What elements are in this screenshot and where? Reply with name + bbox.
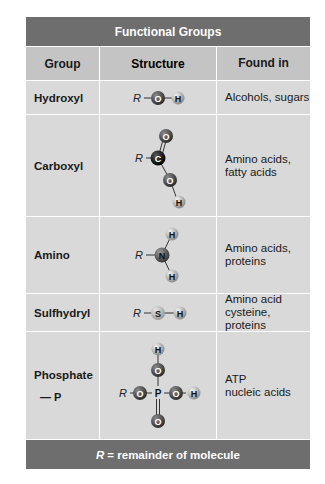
structure-cell: R S H [100,294,217,331]
group-name: Phosphate [34,369,93,381]
svg-text:O: O [154,417,161,427]
svg-text:H: H [155,345,162,355]
table-row-carboxyl: Carboxyl R O C O H Amino acids,fatty aci… [26,114,310,216]
header-row: Group Structure Found in [26,46,310,80]
svg-text:H: H [191,389,198,399]
hydroxyl-structure-icon: R O H [100,82,216,114]
svg-text:H: H [177,309,184,319]
table-row-amino: Amino R H N H Amino acids,proteins [26,216,310,293]
sulfhydryl-structure-icon: R S H [100,295,216,331]
svg-text:O: O [136,389,143,399]
svg-text:O: O [154,94,161,104]
table-title: Functional Groups [26,17,310,46]
header-found-in: Found in [217,47,310,80]
structure-cell: R O H [100,81,217,114]
header-structure: Structure [100,47,217,80]
svg-text:N: N [159,251,166,261]
footer-text: = remainder of molecule [107,449,240,461]
table-footer: R = remainder of molecule [26,439,310,469]
svg-text:R: R [135,152,143,164]
svg-text:S: S [155,309,161,319]
group-name: Carboxyl [26,115,100,216]
svg-text:H: H [176,198,183,208]
phosphate-symbol: — P [40,391,61,403]
table-row-sulfhydryl: Sulfhydryl R S H Amino acidcysteine, pro… [26,293,310,331]
table-row-hydroxyl: Hydroxyl R O H Alcohols, sugars [26,80,310,114]
svg-text:R: R [119,387,127,399]
structure-cell: R O C O H [100,115,217,216]
functional-groups-table: Functional Groups Group Structure Found … [26,17,310,469]
svg-text:R: R [133,307,141,319]
svg-text:P: P [155,388,162,399]
r-symbol: R [96,449,104,461]
amino-structure-icon: R H N H [100,218,216,293]
group-name-cell: Phosphate — P [26,332,100,439]
svg-text:C: C [155,154,162,164]
svg-text:O: O [154,366,161,376]
svg-text:H: H [175,94,182,104]
structure-cell: R H N H [100,217,217,293]
header-group: Group [26,47,100,80]
svg-text:O: O [162,132,169,142]
svg-text:R: R [133,92,141,104]
svg-text:H: H [169,230,176,240]
found-in: Alcohols, sugars [217,81,310,114]
found-in: Amino acids,proteins [217,217,310,293]
svg-text:O: O [166,176,173,186]
found-in: Amino acidcysteine, proteins [217,294,310,331]
carboxyl-structure-icon: R O C O H [100,116,216,216]
found-in: Amino acids,fatty acids [217,115,310,216]
svg-text:R: R [135,249,143,261]
table-row-phosphate: Phosphate — P R H O O P O H O ATPnucleic… [26,331,310,439]
found-in: ATPnucleic acids [217,332,310,439]
group-name: Hydroxyl [26,81,100,114]
group-name: Sulfhydryl [26,294,100,331]
svg-text:O: O [172,389,179,399]
phosphate-structure-icon: R H O O P O H O [100,333,216,439]
group-name: Amino [26,217,100,293]
svg-text:H: H [169,272,176,282]
structure-cell: R H O O P O H O [100,332,217,439]
